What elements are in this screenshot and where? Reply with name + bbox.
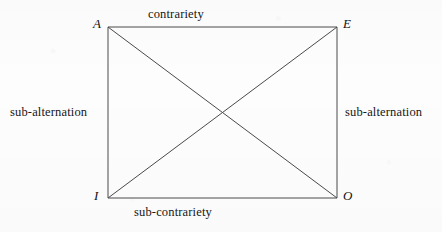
edge-label-sub-contrariety: sub-contrariety — [134, 206, 212, 219]
edge-label-sub-alternation-left: sub-alternation — [10, 106, 87, 119]
edge-label-sub-alternation-right: sub-alternation — [345, 106, 422, 119]
vertex-label-i: I — [94, 189, 98, 202]
vertex-label-a: A — [93, 17, 101, 30]
edge-label-contrariety: contrariety — [148, 8, 204, 21]
vertex-label-o: O — [343, 189, 352, 202]
vertex-label-e: E — [343, 17, 351, 30]
square-of-opposition-figure: contrariety sub-contrariety sub-alternat… — [0, 0, 442, 232]
